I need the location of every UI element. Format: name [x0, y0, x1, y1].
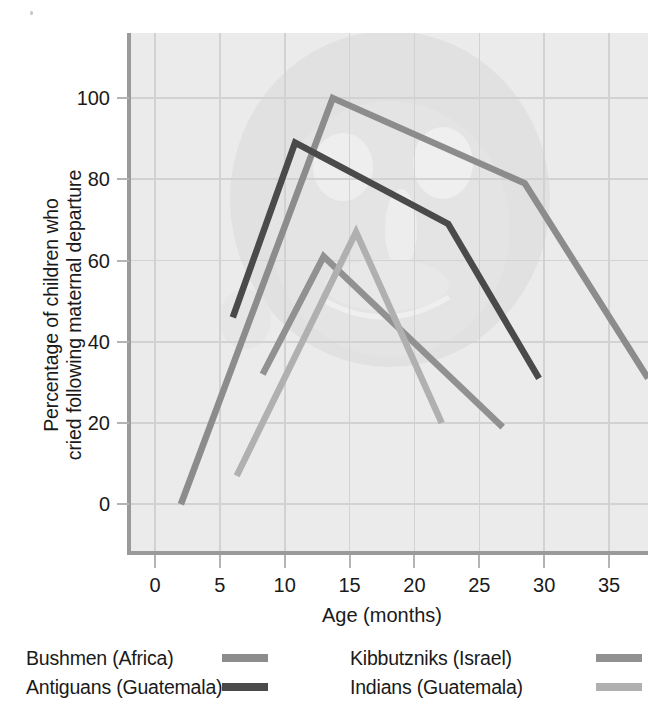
y-tick-mark	[117, 422, 129, 424]
chart-figure: Percentage of children who cried followi…	[0, 0, 648, 706]
x-tick-label: 0	[132, 574, 178, 596]
x-tick-label: 35	[586, 574, 632, 596]
x-axis-spine	[127, 551, 648, 555]
legend-entry-kibbutzniks: Kibbutzniks (Israel)	[350, 645, 512, 671]
x-tick-mark	[543, 555, 545, 568]
y-tick-label: 40	[62, 332, 110, 352]
y-tick-label: 60	[62, 251, 110, 271]
plot-canvas	[129, 33, 648, 553]
x-tick-label: 10	[262, 574, 308, 596]
x-axis-title: Age (months)	[112, 604, 648, 627]
legend-label: Antiguans (Guatemala)	[26, 674, 222, 700]
legend-swatch	[596, 683, 642, 691]
x-tick-mark	[219, 555, 221, 568]
y-tick-mark	[117, 341, 129, 343]
x-tick-mark	[349, 555, 351, 568]
x-tick-label: 15	[327, 574, 373, 596]
chart-legend: Bushmen (Africa) Antiguans (Guatemala) K…	[0, 640, 648, 706]
y-tick-mark	[117, 260, 129, 262]
y-axis-spine	[127, 33, 131, 555]
scan-artifact-speck	[30, 11, 33, 15]
x-tick-mark	[413, 555, 415, 568]
legend-swatch	[222, 683, 268, 691]
y-tick-mark	[117, 178, 129, 180]
legend-entry-antiguans: Antiguans (Guatemala)	[26, 674, 222, 700]
legend-label: Bushmen (Africa)	[26, 645, 173, 671]
x-axis-tick-labels: 05101520253035	[0, 574, 648, 602]
x-tick-mark	[478, 555, 480, 568]
x-tick-label: 5	[197, 574, 243, 596]
x-tick-mark	[154, 555, 156, 568]
plot-area	[129, 33, 648, 553]
legend-swatch	[596, 654, 642, 662]
y-tick-label: 20	[62, 413, 110, 433]
legend-swatch	[222, 654, 268, 662]
x-tick-label: 25	[456, 574, 502, 596]
y-tick-mark	[117, 97, 129, 99]
legend-label: Indians (Guatemala)	[350, 674, 523, 700]
y-tick-label: 100	[62, 88, 110, 108]
y-tick-label: 0	[62, 494, 110, 514]
y-tick-mark	[117, 503, 129, 505]
x-tick-mark	[284, 555, 286, 568]
legend-entry-indians: Indians (Guatemala)	[350, 674, 523, 700]
y-tick-label: 80	[62, 169, 110, 189]
x-tick-label: 30	[521, 574, 567, 596]
legend-label: Kibbutzniks (Israel)	[350, 645, 512, 671]
x-tick-mark	[608, 555, 610, 568]
legend-entry-bushmen: Bushmen (Africa)	[26, 645, 173, 671]
x-tick-label: 20	[391, 574, 437, 596]
